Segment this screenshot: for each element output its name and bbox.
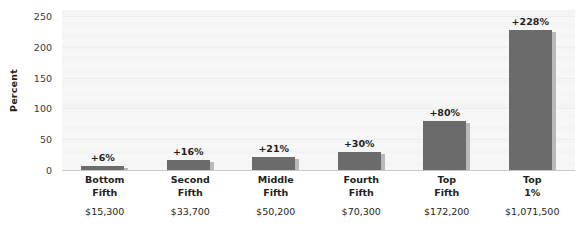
bar-value-label: +30%	[338, 138, 381, 149]
bars-layer: +6%+16%+21%+30%+80%+228%	[62, 10, 575, 170]
bar-shadow	[552, 32, 556, 170]
y-axis-title-label: Percent	[8, 69, 19, 112]
category-amount-label: $172,200	[404, 206, 490, 218]
bar-shadow	[466, 123, 470, 170]
bar-value-label: +228%	[509, 16, 552, 27]
x-axis-labels: BottomFifth$15,300SecondFifth$33,700Midd…	[62, 174, 575, 233]
bar-4[interactable]	[338, 152, 381, 170]
category-amount-label: $50,200	[233, 206, 319, 218]
x-axis-label-group: FourthFifth$70,300	[319, 174, 405, 218]
bar-group: +80%	[423, 10, 470, 170]
category-amount-label: $15,300	[62, 206, 148, 218]
bar-value-label: +80%	[423, 107, 466, 118]
bar-chart-figure: Percent 050100150200250 +6%+16%+21%+30%+…	[0, 0, 586, 233]
bar-shadow	[381, 154, 385, 170]
category-label-line1: Middle	[233, 174, 319, 187]
category-label-line1: Bottom	[62, 174, 148, 187]
x-axis-baseline	[62, 170, 575, 171]
bar-shadow	[295, 159, 299, 170]
category-label-line2: Fifth	[404, 187, 490, 200]
x-axis-label-group: BottomFifth$15,300	[62, 174, 148, 218]
bar-group: +21%	[252, 10, 299, 170]
category-label-line1: Top	[404, 174, 490, 187]
y-axis-tick-200: 200	[34, 41, 52, 52]
y-axis-tick-250: 250	[34, 11, 52, 22]
y-axis-tick-labels: 050100150200250	[26, 0, 58, 233]
bar-shadow	[210, 162, 214, 170]
category-label-line2: 1%	[490, 187, 576, 200]
category-label-line1: Top	[490, 174, 576, 187]
y-axis-tick-100: 100	[34, 103, 52, 114]
x-axis-label-group: MiddleFifth$50,200	[233, 174, 319, 218]
category-label-line2: Fifth	[319, 187, 405, 200]
category-label-line2: Fifth	[62, 187, 148, 200]
bar-3[interactable]	[252, 157, 295, 170]
bar-group: +6%	[81, 10, 128, 170]
bar-group: +228%	[509, 10, 556, 170]
category-amount-label: $33,700	[148, 206, 234, 218]
x-axis-label-group: SecondFifth$33,700	[148, 174, 234, 218]
y-axis-tick-0: 0	[46, 165, 52, 176]
category-amount-label: $70,300	[319, 206, 405, 218]
y-axis-tick-50: 50	[40, 134, 52, 145]
category-label-line1: Second	[148, 174, 234, 187]
category-label-line1: Fourth	[319, 174, 405, 187]
x-axis-label-group: Top1%$1,071,500	[490, 174, 576, 218]
category-label-line2: Fifth	[233, 187, 319, 200]
bar-value-label: +16%	[167, 146, 210, 157]
bar-group: +16%	[167, 10, 214, 170]
y-axis-tick-150: 150	[34, 72, 52, 83]
bar-group: +30%	[338, 10, 385, 170]
bar-value-label: +21%	[252, 143, 295, 154]
bar-5[interactable]	[423, 121, 466, 170]
x-axis-label-group: TopFifth$172,200	[404, 174, 490, 218]
bar-value-label: +6%	[81, 152, 124, 163]
bar-2[interactable]	[167, 160, 210, 170]
category-amount-label: $1,071,500	[490, 206, 576, 218]
category-label-line2: Fifth	[148, 187, 234, 200]
y-axis-title: Percent	[0, 0, 26, 180]
bar-6[interactable]	[509, 30, 552, 170]
